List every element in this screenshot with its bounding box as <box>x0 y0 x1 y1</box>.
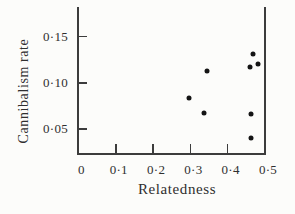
x-axis-tick-mark <box>152 144 154 153</box>
x-axis-tick-label: 0·1 <box>110 163 128 177</box>
data-point <box>251 52 256 57</box>
x-axis-tick-label: 0 <box>78 163 85 177</box>
data-point <box>249 136 254 141</box>
data-point <box>202 111 207 116</box>
y-axis-tick-label: 0·10 <box>34 76 68 90</box>
data-point <box>247 65 252 70</box>
data-point <box>255 62 260 67</box>
x-axis-tick-label: 0·2 <box>147 163 165 177</box>
x-axis-tick-label: 0·5 <box>259 163 277 177</box>
x-axis-tick-label: 0·4 <box>222 163 240 177</box>
x-axis-tick-mark <box>227 144 229 153</box>
scatter-plot-figure: Cannibalism rate 00·10·20·30·40·50·050·1… <box>0 0 295 214</box>
x-axis-title: Relatedness <box>138 181 216 198</box>
data-point <box>205 68 210 73</box>
data-point <box>186 95 191 100</box>
y-axis-tick-mark <box>79 128 87 130</box>
y-axis-tick-mark <box>79 82 87 84</box>
data-point <box>249 112 254 117</box>
y-axis-tick-mark <box>79 36 87 38</box>
y-axis-title: Cannibalism rate <box>16 39 32 144</box>
x-axis-tick-mark <box>115 144 117 153</box>
x-axis-tick-label: 0·3 <box>184 163 202 177</box>
y-axis-tick-label: 0·05 <box>34 122 68 136</box>
plot-area-frame <box>77 7 266 155</box>
y-axis-tick-label: 0·15 <box>34 30 68 44</box>
x-axis-tick-mark <box>190 144 192 153</box>
